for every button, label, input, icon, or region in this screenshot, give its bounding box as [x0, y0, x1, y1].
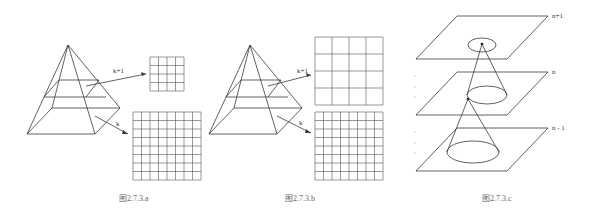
plane-top [416, 16, 548, 59]
pyramid-b [209, 45, 302, 134]
plane-middle [416, 72, 548, 115]
label-k-a: k [116, 120, 120, 128]
diagram-canvas: k+1 k k+1 k [0, 0, 595, 211]
ellipsis-dots [415, 76, 416, 154]
arrow-k-b: k [277, 116, 311, 133]
label-k1-b: k+1 [297, 67, 308, 75]
caption-b: 图2.7.3.b [285, 192, 315, 203]
label-n-minus-1: n - 1 [552, 124, 565, 132]
grid-b-bottom [315, 112, 383, 180]
arrow-k1-b: k+1 [268, 67, 311, 86]
cone-upper [467, 38, 507, 104]
grid-b-top [315, 37, 383, 105]
arrow-k1-a: k+1 [86, 67, 146, 86]
label-n-plus-1: n+1 [552, 12, 563, 20]
label-k-b: k [299, 119, 303, 127]
caption-a: 图2.7.3.a [119, 192, 149, 203]
label-n: n [552, 68, 556, 76]
arrow-k-a: k [95, 116, 128, 134]
pyramid-a [27, 45, 120, 134]
caption-c: 图2.7.3.c [482, 192, 512, 203]
plane-bottom [416, 128, 548, 171]
grid-a-top [150, 57, 184, 91]
label-k1-a: k+1 [113, 67, 124, 75]
grid-a-bottom [133, 112, 201, 180]
